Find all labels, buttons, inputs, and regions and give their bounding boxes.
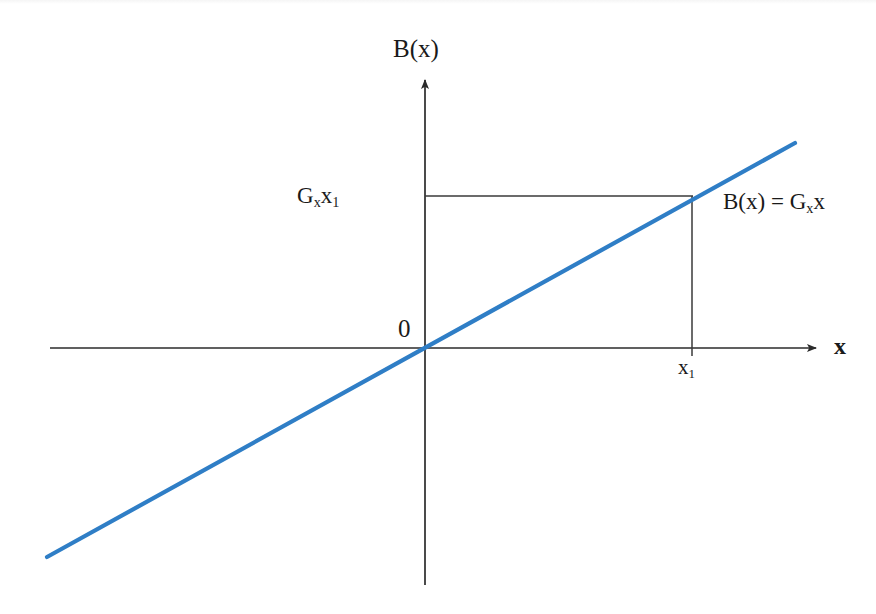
x-tick-label-sub: 1: [689, 366, 696, 381]
linear-function-diagram: [0, 0, 876, 614]
function-line-bx: [47, 143, 795, 557]
figure-canvas: B(x) x 0 Gxx1 x1 B(x) = Gxx: [0, 0, 876, 614]
y-tick-label-x: x: [321, 183, 333, 208]
x-tick-label-x: x: [678, 355, 689, 379]
x-axis-title: x: [834, 334, 846, 358]
equation-label: B(x) = Gxx: [723, 190, 825, 213]
origin-label: 0: [398, 316, 411, 341]
x-tick-label-x1: x1: [678, 357, 695, 378]
y-axis-title: B(x): [393, 36, 439, 61]
equation-suffix: x: [813, 189, 825, 214]
equation-prefix: B(x) = G: [723, 189, 806, 214]
equation-subscript: x: [806, 200, 813, 216]
y-tick-label-x-sub: 1: [332, 194, 339, 210]
y-tick-label-gxx1: Gxx1: [297, 184, 339, 207]
y-tick-label-g-sub: x: [314, 194, 321, 210]
y-tick-label-g: G: [297, 183, 314, 208]
